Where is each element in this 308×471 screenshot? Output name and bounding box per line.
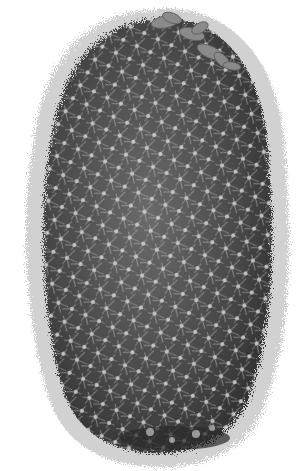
cactus-image (0, 0, 308, 471)
cactus-illustration (0, 0, 308, 471)
